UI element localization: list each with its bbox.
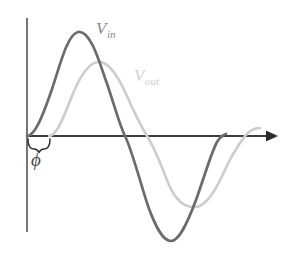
vin-label-subscript: in — [107, 28, 116, 40]
phase-phi-label: ϕ — [31, 150, 41, 169]
x-axis-arrowhead — [266, 131, 278, 142]
vout-label-subscript: out — [145, 75, 159, 87]
vin-label-base: V — [96, 19, 106, 38]
vin-label: Vin — [96, 20, 115, 37]
figure-canvas — [0, 0, 285, 256]
vout-label-base: V — [134, 66, 144, 85]
vout-label: Vout — [134, 67, 158, 84]
waveform-figure: Vin Vout ϕ — [0, 0, 285, 256]
